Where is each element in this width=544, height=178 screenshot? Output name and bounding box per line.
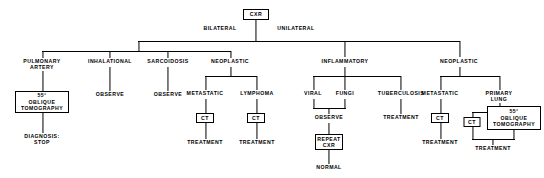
edge-drop-inhalational <box>109 51 110 58</box>
edge-label-bilateral: BILATERAL <box>203 25 236 31</box>
node-ct-primary-lung: CT <box>464 117 481 127</box>
edge-drop-tuberculosis <box>400 76 401 90</box>
node-repeat-cxr: REPEAT CXR <box>315 134 343 150</box>
node-treatment-metastatic-left: TREATMENT <box>177 139 233 145</box>
node-treatment-lymphoma: TREATMENT <box>229 139 285 145</box>
edge-metastatic-right-to-ct <box>440 99 441 113</box>
edge-neoplastic-right-stem <box>459 67 460 76</box>
node-inhalational: INHALATIONAL <box>81 58 139 64</box>
node-neoplastic-left: NEOPLASTIC <box>203 58 257 64</box>
node-metastatic-left: METASTATIC <box>177 90 233 96</box>
node-cxr-root: CXR <box>243 9 269 20</box>
edge-pulmonary-to-tomography <box>42 71 43 91</box>
edge-fungi-down <box>344 99 345 108</box>
node-ct-metastatic-left: CT <box>196 113 214 123</box>
node-ct-metastatic-right: CT <box>431 113 449 123</box>
edge-drop-neoplastic-right <box>459 41 460 57</box>
edge-viral-down <box>313 99 314 108</box>
edge-drop-left-cluster <box>138 41 139 51</box>
node-pulmonary-artery: PULMONARY ARTERY <box>13 58 71 70</box>
node-observe-infect: OBSERVE <box>304 114 354 120</box>
edge-neoplastic-right-bar <box>440 76 500 77</box>
edge-drop-lymphoma <box>256 76 257 90</box>
edge-tomography-to-diagnosis <box>42 113 43 133</box>
node-metastatic-right: METASTATIC <box>412 90 468 96</box>
edge-drop-primary-lung <box>499 76 500 90</box>
edge-ct-to-treatment-metastatic-left <box>205 123 206 139</box>
edge-drop-metastatic-right <box>440 76 441 90</box>
edge-left-cluster-bar <box>42 51 231 52</box>
node-treatment-tuberculosis: TREATMENT <box>372 114 430 120</box>
edge-repeat-cxr-to-normal <box>328 150 329 164</box>
edge-observe-to-repeat-cxr <box>328 123 329 134</box>
node-sarcoidosis: SARCOIDOSIS <box>141 58 195 64</box>
edge-level1-bar <box>138 41 460 42</box>
node-observe-inhalational: OBSERVE <box>83 91 137 97</box>
edge-ct-to-treatment-metastatic-right <box>440 123 441 139</box>
node-oblique-tomography-left: 55° OBLIQUE TOMOGRAPHY <box>15 91 69 113</box>
edge-drop-metastatic-left <box>205 76 206 90</box>
edge-root-stem <box>255 20 256 42</box>
node-oblique-tomography-right: 55° OBLIQUE TOMOGRAPHY <box>487 106 541 130</box>
edge-drop-sarcoidosis <box>167 51 168 58</box>
edge-neoplastic-left-stem <box>230 67 231 76</box>
edge-ct-primary-down <box>472 127 473 139</box>
edge-neoplastic-left-bar <box>205 76 257 77</box>
edge-sarcoidosis-to-observe <box>167 67 168 91</box>
flowchart-diagram: CXR BILATERAL UNILATERAL PULMONARY ARTER… <box>0 0 544 178</box>
node-inflammatory: INFLAMMATORY <box>315 58 375 64</box>
edge-drop-inflammatory <box>344 41 345 57</box>
node-lymphoma: LYMPHOMA <box>229 90 285 96</box>
node-normal: NORMAL <box>304 164 354 170</box>
edge-drop-neoplastic-left <box>230 51 231 58</box>
node-ct-lymphoma: CT <box>247 113 265 123</box>
edge-lymphoma-to-ct <box>256 99 257 113</box>
node-treatment-metastatic-right: TREATMENT <box>412 139 468 145</box>
edge-drop-pulmonary-artery <box>42 51 43 58</box>
edge-metastatic-left-to-ct <box>205 99 206 113</box>
edge-drop-viral <box>313 76 314 90</box>
edge-inflammatory-stem <box>344 67 345 76</box>
edge-tuberculosis-to-treatment <box>400 99 401 114</box>
node-diagnosis-stop: DIAGNOSIS: STOP <box>15 133 69 145</box>
edge-label-unilateral: UNILATERAL <box>277 25 314 31</box>
edge-drop-fungi <box>344 76 345 90</box>
node-fungi: FUNGI <box>325 90 365 96</box>
node-neoplastic-right: NEOPLASTIC <box>432 58 486 64</box>
edge-ct-to-treatment-lymphoma <box>256 123 257 139</box>
edge-tomography-right-down <box>513 130 514 139</box>
edge-inhalational-to-observe <box>109 67 110 91</box>
node-treatment-primary-lung: TREATMENT <box>465 145 521 151</box>
edge-inflammatory-bar <box>313 76 401 77</box>
node-primary-lung: PRIMARY LUNG <box>475 90 523 102</box>
